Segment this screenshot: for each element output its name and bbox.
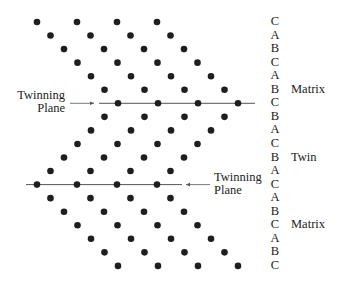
atom-dot bbox=[101, 86, 108, 93]
atom-dot bbox=[208, 236, 215, 243]
atom-dot bbox=[155, 100, 162, 107]
stacking-letter: C bbox=[269, 137, 281, 150]
atom-dot bbox=[128, 236, 135, 243]
atom-dot bbox=[195, 100, 202, 107]
atom-dot bbox=[181, 114, 188, 121]
twinning-plane-label: TwinningPlane bbox=[214, 171, 262, 197]
stacking-letter: A bbox=[269, 164, 281, 177]
stacking-letter: B bbox=[269, 151, 281, 164]
atom-dot bbox=[88, 127, 95, 134]
stacking-letter: C bbox=[269, 218, 281, 231]
label-line: Plane bbox=[0, 102, 65, 115]
atom-dot bbox=[87, 195, 94, 202]
atom-dot bbox=[181, 46, 188, 53]
atom-dot bbox=[114, 19, 121, 26]
atom-dot bbox=[141, 154, 148, 161]
arrowhead-icon bbox=[186, 183, 190, 187]
atom-dot bbox=[154, 181, 161, 188]
atom-dot bbox=[194, 59, 201, 66]
atom-dot bbox=[61, 46, 68, 53]
stacking-letter: B bbox=[269, 245, 281, 258]
atom-dot bbox=[168, 236, 175, 243]
atom-dot bbox=[195, 263, 202, 270]
atom-dot bbox=[101, 154, 108, 161]
atom-dot bbox=[74, 141, 81, 148]
atom-dot bbox=[141, 208, 148, 215]
atom-dot bbox=[168, 127, 175, 134]
atom-dot bbox=[194, 141, 201, 148]
stacking-letter: C bbox=[269, 96, 281, 109]
atom-dot bbox=[101, 114, 108, 121]
atom-dot bbox=[47, 32, 54, 39]
stacking-letter: B bbox=[269, 83, 281, 96]
atom-dot bbox=[34, 181, 41, 188]
stacking-letter: C bbox=[269, 56, 281, 69]
atom-dot bbox=[101, 249, 108, 256]
atom-dot bbox=[127, 32, 134, 39]
atom-dot bbox=[47, 168, 54, 175]
atom-dot bbox=[61, 208, 68, 215]
atom-dot bbox=[194, 222, 201, 229]
atom-dot bbox=[88, 73, 95, 80]
atom-dot bbox=[61, 154, 68, 161]
atom-dot bbox=[167, 168, 174, 175]
atom-dot bbox=[74, 222, 81, 229]
atom-dot bbox=[167, 195, 174, 202]
atom-dot bbox=[154, 19, 161, 26]
atom-dot bbox=[87, 168, 94, 175]
atom-dot bbox=[221, 249, 228, 256]
atom-dot bbox=[181, 208, 188, 215]
stacking-letter: A bbox=[269, 69, 281, 82]
arrowhead-icon bbox=[90, 102, 94, 106]
atom-dot bbox=[114, 59, 121, 66]
atom-dot bbox=[235, 263, 242, 270]
region-label-matrix: Matrix bbox=[291, 83, 325, 96]
atom-dot bbox=[141, 86, 148, 93]
atom-dot bbox=[115, 263, 122, 270]
stacking-letter: C bbox=[269, 15, 281, 28]
atom-dot bbox=[47, 195, 54, 202]
atom-lattice bbox=[0, 0, 341, 284]
atom-dot bbox=[114, 141, 121, 148]
atom-dot bbox=[74, 19, 81, 26]
atom-dot bbox=[114, 181, 121, 188]
atom-dot bbox=[34, 19, 41, 26]
stacking-letter: B bbox=[269, 205, 281, 218]
atom-dot bbox=[141, 249, 148, 256]
atom-dot bbox=[114, 222, 121, 229]
atom-dot bbox=[221, 86, 228, 93]
atom-dot bbox=[208, 73, 215, 80]
atom-dot bbox=[115, 100, 122, 107]
atom-dot bbox=[221, 114, 228, 121]
stacking-letter: A bbox=[269, 191, 281, 204]
atom-dot bbox=[141, 114, 148, 121]
atom-dot bbox=[208, 127, 215, 134]
twinning-plane-label: TwinningPlane bbox=[0, 89, 65, 115]
atom-dot bbox=[154, 59, 161, 66]
stacking-letter: A bbox=[269, 29, 281, 42]
stacking-letter: A bbox=[269, 123, 281, 136]
atom-dot bbox=[154, 141, 161, 148]
label-line: Twinning bbox=[214, 171, 262, 184]
stacking-letter: C bbox=[269, 259, 281, 272]
stacking-letter: A bbox=[269, 232, 281, 245]
atom-dot bbox=[181, 154, 188, 161]
region-label-matrix: Matrix bbox=[291, 218, 325, 231]
atom-dot bbox=[155, 263, 162, 270]
atom-dot bbox=[128, 73, 135, 80]
atom-dot bbox=[141, 46, 148, 53]
atom-dot bbox=[181, 86, 188, 93]
atom-dot bbox=[101, 208, 108, 215]
atom-dot bbox=[74, 59, 81, 66]
atom-dot bbox=[74, 181, 81, 188]
atom-dot bbox=[167, 32, 174, 39]
atom-dot bbox=[88, 236, 95, 243]
twinning-diagram: TwinningPlaneTwinningPlaneCABCABCBACBACA… bbox=[0, 0, 341, 284]
atom-dot bbox=[181, 249, 188, 256]
stacking-letter: C bbox=[269, 178, 281, 191]
stacking-letter: B bbox=[269, 42, 281, 55]
atom-dot bbox=[127, 168, 134, 175]
atom-dot bbox=[101, 46, 108, 53]
atom-dot bbox=[168, 73, 175, 80]
atom-dot bbox=[154, 222, 161, 229]
